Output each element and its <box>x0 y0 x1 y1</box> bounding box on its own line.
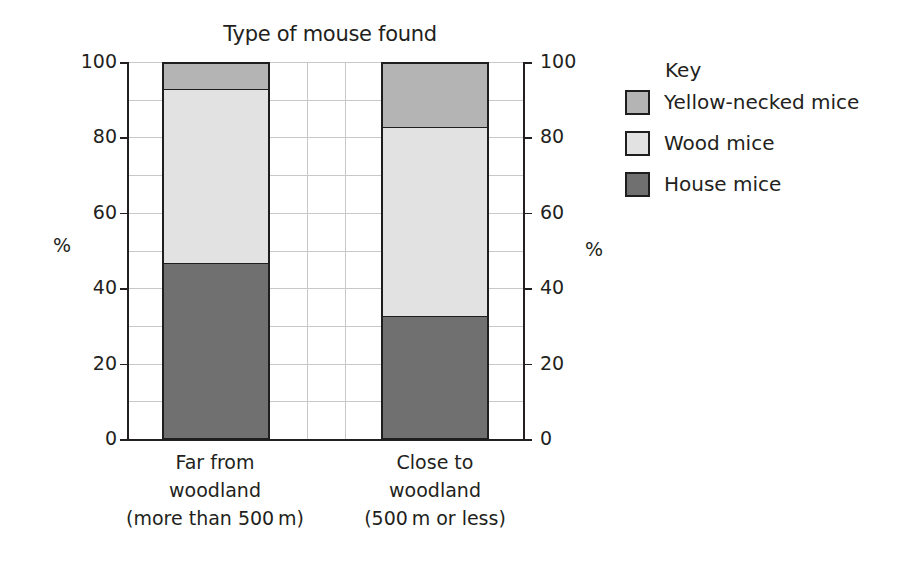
y-tick-label-right: 40 <box>540 277 590 297</box>
bar-segment-yellow-necked-mice <box>381 62 489 127</box>
legend-label: House mice <box>664 172 781 196</box>
legend-label: Wood mice <box>664 131 774 155</box>
bar-close-to-woodland <box>381 62 489 439</box>
bar-segment-yellow-necked-mice <box>162 62 270 89</box>
bar-segment-house-mice <box>162 262 270 440</box>
y-tick-label-left: 20 <box>67 353 117 373</box>
y-tick-right <box>524 62 532 64</box>
y-axis-right <box>523 62 525 439</box>
y-tick-label-right: 20 <box>540 353 590 373</box>
y-tick-label-right: 100 <box>540 51 590 71</box>
legend-item-house-mice: House mice <box>625 170 781 198</box>
plot-area <box>127 62 524 439</box>
category-label-far: Far from woodland (more than 500 m) <box>100 448 330 532</box>
y-tick-label-left: 100 <box>67 51 117 71</box>
y-tick-left <box>120 439 128 441</box>
bar-segment-wood-mice <box>162 88 270 262</box>
legend-label: Yellow-necked mice <box>664 90 859 114</box>
category-label-close: Close to woodland (500 m or less) <box>320 448 550 532</box>
y-axis-left <box>127 62 129 439</box>
y-tick-left <box>120 62 128 64</box>
category-label-line: (more than 500 m) <box>100 504 330 532</box>
legend-swatch <box>625 90 650 115</box>
y-tick-left <box>120 288 128 290</box>
y-tick-label-left: 60 <box>67 202 117 222</box>
legend-swatch <box>625 131 650 156</box>
legend-swatch <box>625 172 650 197</box>
y-tick-left <box>120 213 128 215</box>
y-tick-right <box>524 364 532 366</box>
bar-segment-wood-mice <box>381 126 489 316</box>
category-label-line: Far from <box>100 448 330 476</box>
y-tick-right <box>524 137 532 139</box>
category-label-line: woodland <box>100 476 330 504</box>
y-tick-label-left: 80 <box>67 126 117 146</box>
y-tick-right <box>524 213 532 215</box>
y-tick-left <box>120 364 128 366</box>
gridline-vertical <box>345 62 346 439</box>
gridline-vertical <box>307 62 308 439</box>
chart-title: Type of mouse found <box>190 22 470 46</box>
y-tick-label-left: 40 <box>67 277 117 297</box>
y-tick-right <box>524 439 532 441</box>
category-label-line: (500 m or less) <box>320 504 550 532</box>
y-axis-unit-left: % <box>53 234 71 256</box>
legend-title: Key <box>665 58 701 82</box>
category-label-line: woodland <box>320 476 550 504</box>
y-tick-label-right: 80 <box>540 126 590 146</box>
y-tick-label-left: 0 <box>67 428 117 448</box>
y-tick-left <box>120 137 128 139</box>
category-label-line: Close to <box>320 448 550 476</box>
y-axis-unit-right: % <box>585 238 603 260</box>
y-tick-label-right: 0 <box>540 428 590 448</box>
bar-far-from-woodland <box>162 62 270 439</box>
y-tick-label-right: 60 <box>540 202 590 222</box>
legend-item-yellow-necked-mice: Yellow-necked mice <box>625 88 859 116</box>
legend-item-wood-mice: Wood mice <box>625 129 774 157</box>
bar-segment-house-mice <box>381 315 489 440</box>
y-tick-right <box>524 288 532 290</box>
